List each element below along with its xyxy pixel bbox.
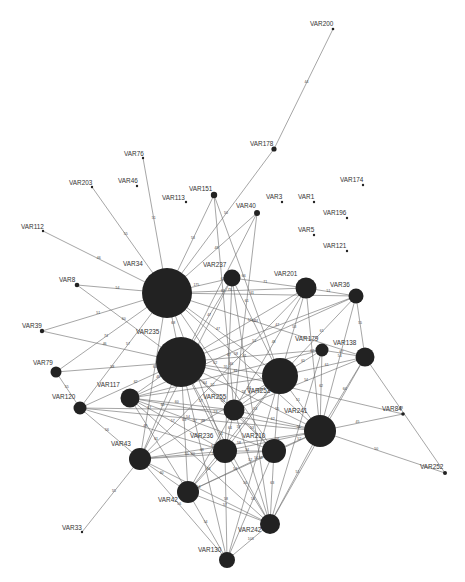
- node-var196[interactable]: [346, 217, 348, 219]
- node-var203[interactable]: [91, 186, 93, 188]
- node-var113[interactable]: [185, 201, 187, 203]
- node-var112[interactable]: [42, 230, 44, 232]
- edge-weight-label: 48: [215, 246, 219, 250]
- node-var36[interactable]: [349, 289, 364, 304]
- node-label-var117: VAR117: [97, 381, 120, 388]
- node-var130[interactable]: [219, 552, 235, 568]
- edge-weight-label: 63: [206, 467, 210, 471]
- edge-weight-label: 64: [228, 426, 232, 430]
- edge-weight-label: 53: [242, 390, 246, 394]
- edge-weight-label: 47: [207, 313, 211, 317]
- node-var42[interactable]: [177, 481, 199, 503]
- node-var1[interactable]: [313, 201, 315, 203]
- edge-weight-label: 57: [223, 503, 227, 507]
- node-label-var200: VAR200: [310, 20, 334, 27]
- edge-var43-var33: [82, 459, 140, 532]
- edge-weight-label: 48: [200, 448, 204, 452]
- node-var179[interactable]: [316, 344, 329, 357]
- node-label-var255: VAR255: [203, 393, 227, 400]
- edge-weight-label: 62: [319, 384, 323, 388]
- edge-weight-label: 48: [272, 340, 276, 344]
- edge-var43-var130: [140, 459, 227, 560]
- node-var84[interactable]: [401, 412, 405, 416]
- node-var40[interactable]: [254, 210, 260, 216]
- node-var200[interactable]: [332, 28, 335, 31]
- node-var138[interactable]: [356, 348, 375, 367]
- node-var79[interactable]: [51, 367, 62, 378]
- edge-weight-label: 60: [160, 471, 164, 475]
- node-var33[interactable]: [81, 531, 83, 533]
- edge-weight-label: 62: [134, 380, 138, 384]
- edge-weight-label: 61: [252, 319, 256, 323]
- edge-weight-label: 67: [339, 350, 343, 354]
- node-label-var43: VAR43: [111, 440, 131, 447]
- node-label-var203: VAR203: [69, 179, 93, 186]
- edge-weight-label: 73: [228, 288, 232, 292]
- node-label-var46: VAR46: [118, 177, 138, 184]
- node-label-var40: VAR40: [236, 202, 256, 209]
- node-var76[interactable]: [142, 157, 144, 159]
- edge-weight-label: 60: [343, 387, 347, 391]
- node-label-var252: VAR252: [420, 463, 444, 470]
- node-var255[interactable]: [224, 400, 245, 421]
- node-label-var112: VAR112: [21, 223, 44, 230]
- node-var5[interactable]: [313, 234, 315, 236]
- edge-weight-label: 57: [147, 406, 151, 410]
- edge-weight-label: 60: [191, 452, 195, 456]
- edge-var237-var201: [232, 278, 306, 288]
- node-var174[interactable]: [362, 184, 364, 186]
- node-var241[interactable]: [304, 415, 336, 447]
- node-label-var39: VAR39: [22, 322, 42, 329]
- node-var43[interactable]: [129, 448, 151, 470]
- edge-weight-label: 51: [248, 318, 252, 322]
- edge-weight-label: 54: [304, 378, 308, 382]
- node-label-var253: VAR253: [247, 387, 271, 394]
- edge-weight-label: 175: [193, 283, 199, 287]
- node-var121[interactable]: [346, 250, 348, 252]
- edge-weight-label: 50: [374, 447, 378, 451]
- edge-weight-label: 57: [193, 419, 197, 423]
- edge-var201-var241: [306, 288, 320, 431]
- edge-var120-var236: [80, 408, 225, 451]
- edge-weight-label: 55: [224, 365, 228, 369]
- node-var201[interactable]: [296, 278, 317, 299]
- edge-weight-label: 60: [161, 403, 165, 407]
- nodes-layer: [40, 28, 447, 568]
- edge-weight-label: 67: [227, 353, 231, 357]
- node-var236[interactable]: [213, 439, 237, 463]
- node-var237[interactable]: [224, 270, 241, 287]
- node-label-var174: VAR174: [340, 176, 364, 183]
- edge-weight-label: 54: [254, 456, 258, 460]
- node-label-var178: VAR178: [250, 140, 274, 147]
- node-var3[interactable]: [281, 201, 283, 203]
- node-var120[interactable]: [74, 402, 87, 415]
- node-label-var236: VAR236: [190, 432, 214, 439]
- edge-weight-label: 56: [297, 425, 301, 429]
- node-var8[interactable]: [75, 283, 80, 288]
- edge-weight-label: 51: [96, 311, 100, 315]
- edge-weight-label: 51: [296, 398, 300, 402]
- node-label-var241: VAR241: [284, 407, 308, 414]
- node-var34[interactable]: [142, 268, 192, 318]
- edge-weight-label: 47: [275, 323, 279, 327]
- edge-weight-label: 68: [171, 321, 175, 325]
- node-var235[interactable]: [156, 337, 206, 387]
- edge-weight-label: 56: [105, 428, 109, 432]
- edge-weight-label: 74: [104, 334, 108, 338]
- node-var39[interactable]: [40, 329, 44, 333]
- node-var242[interactable]: [260, 514, 280, 534]
- node-label-var84: VAR84: [382, 405, 402, 412]
- node-var46[interactable]: [136, 185, 138, 187]
- node-var210[interactable]: [262, 439, 286, 463]
- node-var252[interactable]: [443, 471, 447, 475]
- edge-var120-var255: [80, 408, 234, 410]
- edge-weight-label: 62: [213, 361, 217, 365]
- node-label-var5: VAR5: [298, 226, 315, 233]
- node-var117[interactable]: [121, 389, 140, 408]
- node-var178[interactable]: [271, 146, 276, 151]
- edge-weight-label: 61: [245, 299, 249, 303]
- edge-weight-label: 54: [245, 448, 249, 452]
- node-var151[interactable]: [211, 192, 217, 198]
- edge-weight-label: 46: [97, 256, 101, 260]
- edge-weight-label: 54: [186, 415, 190, 419]
